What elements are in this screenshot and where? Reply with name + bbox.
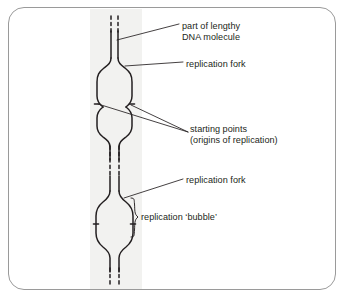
bubble-extent-brace xyxy=(131,198,138,237)
lower-bubble-right xyxy=(119,191,133,272)
label-dna-molecule-line1: part of lengthy xyxy=(182,21,240,31)
leader-origin-left xyxy=(98,104,188,132)
middle-bubble-right xyxy=(119,107,132,160)
dna-strand-middle-solid xyxy=(110,176,119,191)
label-dna-molecule: part of lengthy DNA molecule xyxy=(182,21,240,44)
dna-strand-top-dashed xyxy=(111,16,118,32)
label-origins-line2: (origins of replication) xyxy=(190,135,278,145)
dna-strand-bottom-dashed xyxy=(110,268,119,285)
label-dna-molecule-line2: DNA molecule xyxy=(182,32,240,42)
figure-root: part of lengthy DNA molecule replication… xyxy=(0,0,345,299)
leader-fork-bottom xyxy=(124,179,183,198)
upper-bubble-left xyxy=(97,58,111,107)
middle-bubble-left xyxy=(97,107,110,160)
leader-dna-molecule xyxy=(117,24,179,40)
lower-bubble-left xyxy=(96,191,110,272)
label-origins-line1: starting points xyxy=(190,124,247,134)
dna-strand-top-solid xyxy=(111,31,118,58)
label-replication-bubble: replication ‘bubble’ xyxy=(141,212,217,223)
leader-fork-top xyxy=(125,62,183,66)
label-replication-fork-top: replication fork xyxy=(186,59,246,70)
label-replication-fork-bottom: replication fork xyxy=(186,175,246,186)
leader-origin-right xyxy=(131,105,188,132)
dna-strand-middle-dashed xyxy=(110,146,119,178)
label-origins: starting points (origins of replication) xyxy=(190,124,278,147)
replication-diagram-svg xyxy=(0,0,345,299)
